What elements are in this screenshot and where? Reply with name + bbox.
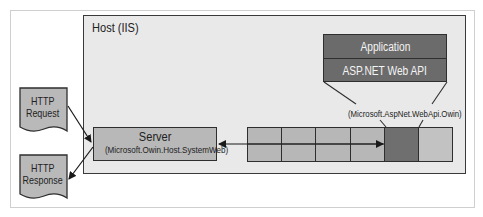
callout-tick-left xyxy=(380,120,386,127)
callout-line-right xyxy=(432,82,447,104)
callout-tick-right xyxy=(419,120,423,127)
request-to-server-arrow xyxy=(68,106,91,142)
http-response-line1: HTTP xyxy=(31,162,54,174)
http-request-label: HTTP Request xyxy=(19,95,67,119)
http-request-line1: HTTP xyxy=(31,95,54,107)
http-response-line2: Response xyxy=(23,174,63,186)
callout-line-left xyxy=(324,82,356,104)
http-response-label: HTTP Response xyxy=(19,162,67,186)
server-to-response-arrow xyxy=(69,147,93,179)
http-request-line2: Request xyxy=(26,107,59,119)
diagram-connectors xyxy=(0,0,483,217)
